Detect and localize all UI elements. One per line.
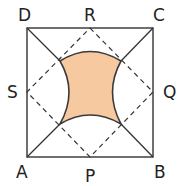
label-s: S <box>7 84 18 101</box>
diagram-canvas <box>0 0 190 186</box>
label-p: P <box>85 168 95 185</box>
diagonal-ca <box>27 124 60 157</box>
shaded-region <box>60 52 121 125</box>
label-d: D <box>18 7 31 24</box>
label-b: B <box>154 164 166 181</box>
geometry-diagram: D R C S Q A P B <box>0 0 190 186</box>
label-r: R <box>84 7 96 24</box>
diagonal-db <box>121 124 153 157</box>
diagonal-ca <box>121 28 153 61</box>
diagonal-db <box>27 28 60 61</box>
label-q: Q <box>163 84 176 101</box>
label-c: C <box>153 7 165 24</box>
label-a: A <box>16 164 28 181</box>
